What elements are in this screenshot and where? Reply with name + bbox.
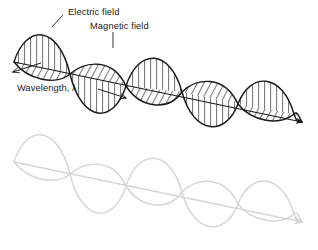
ghost-wave-group	[14, 135, 302, 227]
main-wave-group	[14, 35, 302, 127]
wavelength-label: Wavelength, λ	[17, 83, 77, 93]
magnetic-field-label: Magnetic field	[90, 21, 149, 31]
electric-field-leader	[52, 15, 63, 27]
em-wave-figure: Electric field Magnetic field Wavelength…	[0, 0, 318, 250]
ghost-propagation-axis	[14, 162, 302, 222]
magnetic-field-annotation: Magnetic field	[90, 21, 149, 48]
electric-field-label: Electric field	[68, 7, 120, 17]
